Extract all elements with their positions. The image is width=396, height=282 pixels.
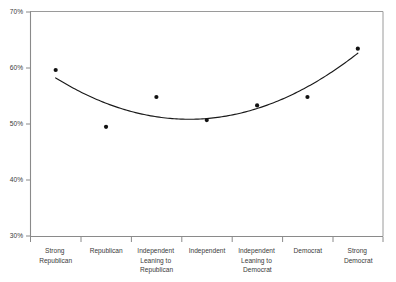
x-label-independent-leaning-republican: Independent Leaning to Republican: [137, 247, 176, 274]
data-point: [154, 95, 158, 99]
y-tick-label-70: 70%: [10, 8, 23, 15]
x-label-line: Republican: [90, 247, 123, 255]
x-label-line: Democrat: [243, 266, 272, 273]
chart-canvas: 70% 60% 50% 40% 30% Strong Republican Re…: [0, 0, 396, 282]
chart-background: [0, 0, 396, 282]
y-tick-label-40: 40%: [10, 176, 23, 183]
x-label-line: Democrat: [344, 257, 373, 264]
y-tick-label-60: 60%: [10, 64, 23, 71]
x-label-independent-leaning-democrat: Independent Leaning to Democrat: [238, 247, 277, 273]
data-point: [305, 95, 309, 99]
y-tick-label-50: 50%: [10, 120, 23, 127]
x-label-independent: Independent: [189, 247, 226, 255]
x-label-line: Democrat: [294, 247, 323, 254]
x-label-republican: Republican: [90, 247, 123, 255]
x-label-line: Republican: [39, 257, 72, 265]
data-point: [104, 125, 108, 129]
x-label-line: Strong: [45, 247, 65, 255]
x-label-line: Independent: [137, 247, 174, 255]
x-label-democrat: Democrat: [294, 247, 323, 254]
x-label-line: Strong: [348, 247, 368, 255]
x-label-line: Independent: [238, 247, 275, 255]
x-label-line: Independent: [189, 247, 226, 255]
x-label-line: Republican: [140, 266, 173, 274]
data-point: [356, 47, 360, 51]
x-label-line: Leaning to: [140, 257, 171, 265]
data-point: [54, 68, 58, 72]
x-label-line: Leaning to: [241, 257, 272, 265]
y-tick-label-30: 30%: [10, 232, 23, 239]
data-point: [205, 118, 209, 122]
scatter-chart-figure: 70% 60% 50% 40% 30% Strong Republican Re…: [0, 0, 396, 282]
data-point: [255, 103, 259, 107]
